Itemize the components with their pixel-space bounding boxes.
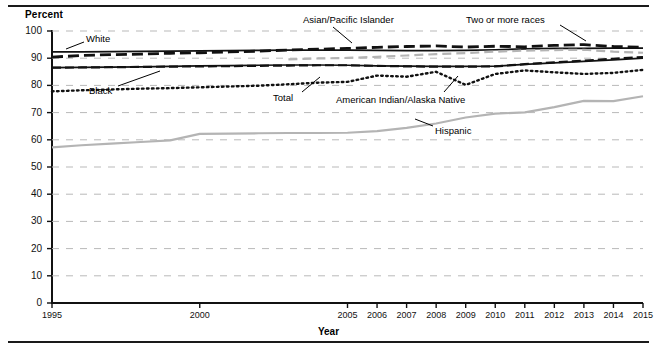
x-tick-label: 2015 (623, 310, 657, 320)
y-tick-label: 10 (12, 270, 42, 281)
x-tick-label: 2000 (180, 310, 220, 320)
x-tick-marks (52, 303, 643, 308)
y-tick-label: 100 (12, 25, 42, 36)
y-tick-label: 90 (12, 52, 42, 63)
annotation-american-indian-alaska-native: American Indian/Alaska Native (336, 94, 465, 105)
annotation-hispanic: Hispanic (435, 125, 471, 136)
plot-area (0, 0, 657, 348)
y-tick-label: 60 (12, 134, 42, 145)
annotation-white: White (86, 33, 110, 44)
y-tick-label: 80 (12, 79, 42, 90)
chart-figure: Percent Year 0102030405060708090100 1995… (0, 0, 657, 348)
y-tick-label: 50 (12, 161, 42, 172)
annotation-total: Total (273, 92, 293, 103)
annotation-two-or-more-races: Two or more races (466, 14, 545, 25)
y-tick-label: 20 (12, 243, 42, 254)
annotation-asian-pacific-islander: Asian/Pacific Islander (303, 14, 394, 25)
y-tick-label: 0 (12, 297, 42, 308)
annotation-black: Black (89, 85, 112, 96)
annotation-leader-lines (66, 25, 586, 126)
y-tick-label: 70 (12, 107, 42, 118)
y-tick-marks (47, 31, 52, 303)
y-tick-label: 30 (12, 215, 42, 226)
y-tick-label: 40 (12, 188, 42, 199)
x-tick-label: 1995 (32, 310, 72, 320)
series-line (52, 70, 643, 91)
